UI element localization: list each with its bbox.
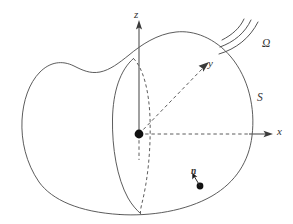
- diagram-canvas: [0, 0, 293, 224]
- origin-dot: [135, 130, 144, 139]
- surface-label-s: S: [257, 92, 263, 104]
- normal-vector-label: n: [191, 167, 196, 177]
- figure-container: z y x Ω S n: [0, 0, 293, 224]
- body-outline-path: [22, 32, 253, 215]
- y-axis-label: y: [208, 58, 213, 69]
- x-axis-label: x: [277, 126, 282, 137]
- radiation-arc-inner: [222, 19, 244, 40]
- z-axis-label: z: [134, 9, 138, 20]
- radiation-arc-middle: [220, 20, 251, 47]
- y-axis-dashed-line: [139, 68, 203, 134]
- region-label-omega: Ω: [262, 38, 270, 50]
